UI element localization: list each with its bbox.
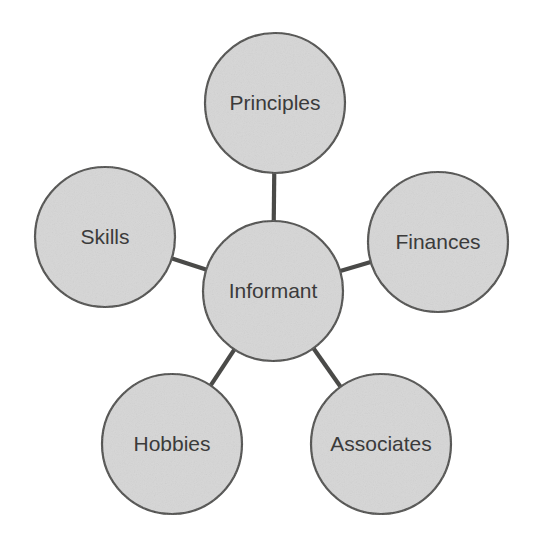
node-finances[interactable]: Finances: [368, 172, 508, 312]
spider-diagram: PrinciplesSkillsFinancesHobbiesAssociate…: [0, 0, 540, 542]
node-label-hobbies: Hobbies: [133, 432, 210, 455]
node-label-associates: Associates: [330, 432, 432, 455]
node-hobbies[interactable]: Hobbies: [102, 374, 242, 514]
node-label-informant: Informant: [229, 279, 318, 302]
node-principles[interactable]: Principles: [205, 33, 345, 173]
node-associates[interactable]: Associates: [311, 374, 451, 514]
nodes-layer: PrinciplesSkillsFinancesHobbiesAssociate…: [35, 33, 508, 514]
node-skills[interactable]: Skills: [35, 167, 175, 307]
edge-informant-principles: [274, 167, 275, 227]
node-label-skills: Skills: [80, 225, 129, 248]
diagram-canvas: PrinciplesSkillsFinancesHobbiesAssociate…: [0, 0, 540, 542]
edge-informant-hobbies: [207, 344, 237, 390]
node-label-principles: Principles: [229, 91, 320, 114]
edge-informant-skills: [166, 257, 212, 272]
node-label-finances: Finances: [395, 230, 480, 253]
edge-informant-associates: [310, 343, 344, 391]
node-informant[interactable]: Informant: [203, 221, 343, 361]
